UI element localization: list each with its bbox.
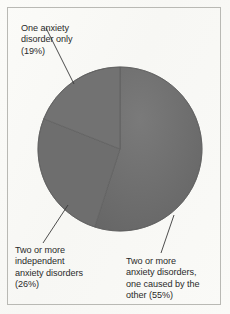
leader-line-two-independent [43,205,68,243]
slice-label-two-or-more-independent: Two or more independent anxiety disorder… [15,245,83,291]
slice-label-one-anxiety-disorder-only: One anxiety disorder only (19%) [21,23,72,57]
leader-line-two-one-caused [161,215,174,253]
pie-chart-figure: One anxiety disorder only (19%) Two or m… [0,0,230,314]
slice-label-two-or-more-one-caused: Two or more anxiety disorders, one cause… [126,256,199,302]
